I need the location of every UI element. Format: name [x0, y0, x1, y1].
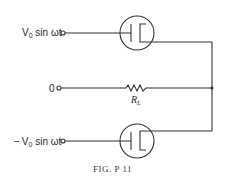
- resistor-label: RL: [130, 94, 141, 107]
- middle-input-terminal: [57, 86, 61, 90]
- junction-dot: [211, 87, 214, 90]
- circuit-diagram: V0 sin ωt 0 RL −V0 sin ωt FIG. P 11: [0, 0, 225, 179]
- bottom-input-label: −V0 sin ωt: [14, 136, 62, 148]
- middle-input-label: 0: [49, 83, 55, 94]
- cathode: [140, 24, 146, 42]
- resistor-rl: [61, 85, 212, 91]
- top-input-terminal: [61, 31, 65, 35]
- figure-caption: FIG. P 11: [93, 164, 132, 174]
- top-input-label: V0 sin ωt: [22, 27, 62, 39]
- bottom-input-terminal: [61, 139, 65, 143]
- cathode: [140, 131, 146, 150]
